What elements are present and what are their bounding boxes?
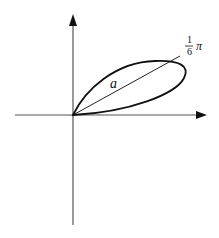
x-axis-arrow-icon	[196, 111, 207, 119]
angle-ray	[73, 56, 180, 115]
angle-numerator: 1	[187, 34, 192, 45]
polar-diagram: a 1 6 π	[0, 0, 219, 238]
petal-curve	[73, 61, 186, 115]
y-axis-arrow-icon	[69, 14, 77, 26]
angle-pi-symbol: π	[196, 39, 203, 53]
angle-denominator: 6	[187, 46, 192, 57]
petal-length-label: a	[110, 76, 117, 91]
